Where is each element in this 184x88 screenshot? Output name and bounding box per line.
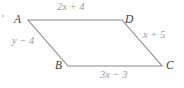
parallelogram-outline — [28, 20, 162, 66]
side-label-bc: 3x − 3 — [100, 70, 128, 81]
vertex-label-d: D — [125, 14, 133, 26]
vertex-label-a: A — [14, 14, 21, 26]
side-label-ad: 2x + 4 — [57, 2, 85, 13]
vertex-label-c: C — [166, 60, 174, 72]
vertex-label-b: B — [55, 60, 62, 72]
side-label-ab: y − 4 — [12, 36, 34, 47]
side-label-dc: x + 5 — [143, 30, 165, 41]
geometry-figure: A D C B 2x + 4 x + 5 3x − 3 y − 4 — [0, 0, 184, 88]
